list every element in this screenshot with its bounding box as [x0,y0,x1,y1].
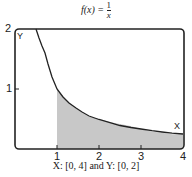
y-axis-letter: Y [17,31,23,41]
shaded-area [57,89,183,149]
range-caption: X: [0, 4] and Y: [0, 2] [0,160,192,171]
y-tick-1: 1 [6,82,12,94]
x-axis-letter: X [174,121,180,131]
y-tick-2: 2 [5,22,11,34]
